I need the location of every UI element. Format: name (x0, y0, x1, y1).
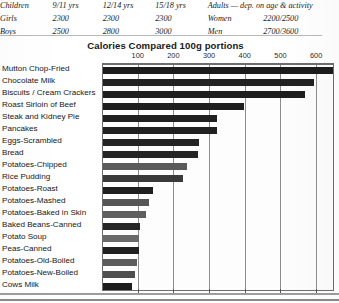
category-label: Potato Soup (2, 232, 47, 241)
girls-9-11: 2300 (53, 13, 103, 26)
divider-top (0, 35, 322, 36)
category-label: Pancakes (2, 124, 38, 133)
divider-bottom-2 (0, 299, 339, 301)
bar (103, 223, 140, 230)
category-label: Potatoes-Old-Boiled (2, 256, 74, 265)
category-label: Mutton Chop-Fried (2, 64, 69, 73)
bar (103, 79, 314, 86)
x-tick-label-100: 100 (132, 51, 144, 60)
bar (103, 187, 153, 194)
cell-age-12-14: 12/14 yrs (103, 0, 156, 13)
bar-chart-plot-area (102, 63, 334, 291)
men-calories: 2700/3600 (263, 26, 339, 39)
girls-12-14: 2300 (103, 13, 156, 26)
girls-15-18: 2300 (155, 13, 208, 26)
category-label: Potatoes-New-Boiled (2, 268, 78, 277)
bar (103, 247, 139, 254)
category-label: Peas-Canned (2, 244, 52, 253)
category-label: Potatoes-Baked in Skin (2, 208, 86, 217)
divider-bottom-1 (0, 293, 339, 295)
table-row: Boys 2500 2800 3000 Men 2700/3600 (0, 26, 339, 39)
x-tick-label-600: 600 (310, 51, 322, 60)
category-label: Potatoes-Roast (2, 184, 58, 193)
cell-age-15-18: 15/18 yrs (155, 0, 208, 13)
bar (103, 115, 217, 122)
category-label: Steak and Kidney Pie (2, 112, 79, 121)
category-axis-labels: Mutton Chop-FriedChocolate MilkBiscuits … (1, 63, 102, 291)
category-label: Eggs-Scrambled (2, 136, 62, 145)
x-axis-tick-labels: 100200300400500600 (102, 51, 334, 62)
boys-12-14: 2800 (103, 26, 156, 39)
x-tick-label-400: 400 (239, 51, 251, 60)
row-label: Children (0, 0, 53, 13)
x-tick-label-500: 500 (274, 51, 286, 60)
category-label: Baked Beans-Canned (2, 220, 81, 229)
x-tick-label-300: 300 (203, 51, 215, 60)
category-label: Bread (2, 148, 24, 157)
boys-15-18: 3000 (155, 26, 208, 39)
bar (103, 103, 244, 110)
bar (103, 127, 217, 134)
boys-9-11: 2500 (53, 26, 103, 39)
category-label: Potatoes-Chipped (2, 160, 67, 169)
bar (103, 235, 139, 242)
category-label: Potatoes-Mashed (2, 196, 65, 205)
gridline-500 (280, 65, 281, 290)
bar (103, 67, 333, 74)
x-tick-label-200: 200 (167, 51, 179, 60)
bar (103, 211, 146, 218)
bar (103, 259, 137, 266)
bar (103, 91, 305, 98)
women-label: Women (208, 13, 264, 26)
gridline-300 (209, 65, 210, 290)
bar (103, 163, 187, 170)
bar (103, 271, 135, 278)
bar (103, 139, 199, 146)
chart-title: Calories Compared 100g portions (0, 40, 339, 51)
category-label: Cows Milk (2, 280, 39, 289)
category-label: Chocolate Milk (2, 76, 55, 85)
women-calories: 2200/2500 (263, 13, 339, 26)
bar (103, 199, 149, 206)
table-row: Children 9/11 yrs 12/14 yrs 15/18 yrs Ad… (0, 0, 339, 13)
row-label-girls: Girls (0, 13, 53, 26)
bar (103, 151, 198, 158)
cell-age-9-11: 9/11 yrs (53, 0, 103, 13)
cell-adults-note: Adults — dep. on age & activity (208, 0, 339, 13)
bar (103, 175, 183, 182)
table-row: Girls 2300 2300 2300 Women 2200/2500 (0, 13, 339, 26)
men-label: Men (208, 26, 264, 39)
row-label-boys: Boys (0, 26, 53, 39)
gridline-400 (245, 65, 246, 290)
category-label: Roast Sirloin of Beef (2, 100, 76, 109)
gridline-600 (316, 65, 317, 290)
category-label: Biscuits / Cream Crackers (2, 88, 96, 97)
category-label: Rice Pudding (2, 172, 50, 181)
nutrition-requirements-table: Children 9/11 yrs 12/14 yrs 15/18 yrs Ad… (0, 0, 339, 36)
